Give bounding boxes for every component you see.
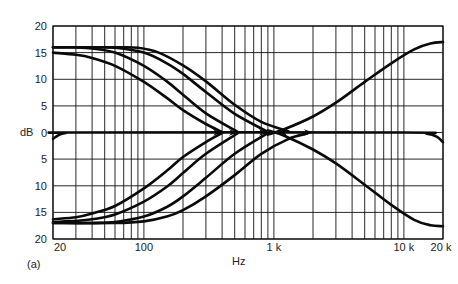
y-tick-label: 20 xyxy=(35,233,47,245)
response-curve xyxy=(53,47,238,132)
response-curve xyxy=(268,130,443,226)
y-tick-label: 5 xyxy=(41,153,47,165)
x-tick-label: 20 xyxy=(54,241,66,253)
response-curve xyxy=(53,133,238,222)
x-tick-label: 10 k xyxy=(394,241,415,253)
x-tick-label: 100 xyxy=(135,241,153,253)
response-curve xyxy=(53,47,268,132)
y-tick-label: 20 xyxy=(35,20,47,32)
y-axis-tick-labels: 201510505101520 xyxy=(35,20,47,245)
x-axis-tick-labels: 201001 k10 k20 k xyxy=(54,241,452,253)
response-curve xyxy=(53,134,307,224)
y-tick-label: 15 xyxy=(35,206,47,218)
y-axis-label: dB xyxy=(20,126,33,138)
frequency-response-chart: 201510505101520 201001 k10 k20 k dB Hz (… xyxy=(0,0,458,284)
y-tick-label: 10 xyxy=(35,180,47,192)
x-tick-label: 20 k xyxy=(431,241,452,253)
panel-label: (a) xyxy=(27,258,40,270)
x-tick-label: 1 k xyxy=(267,241,282,253)
y-tick-label: 0 xyxy=(41,127,47,139)
y-tick-label: 15 xyxy=(35,47,47,59)
response-curve xyxy=(268,42,443,135)
x-axis-label: Hz xyxy=(232,255,245,267)
y-tick-label: 5 xyxy=(41,100,47,112)
response-curve xyxy=(53,133,268,223)
y-tick-label: 10 xyxy=(35,73,47,85)
